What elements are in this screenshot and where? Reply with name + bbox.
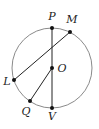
label-m: M (65, 13, 78, 26)
label-o: O (57, 62, 66, 75)
point-m (68, 30, 72, 34)
point-p (50, 26, 54, 30)
point-o (50, 66, 54, 70)
point-l (12, 78, 16, 82)
label-q: Q (21, 105, 30, 118)
label-v: V (48, 110, 57, 123)
circle-diagram: P M L O Q V (0, 0, 99, 129)
label-l: L (2, 75, 10, 88)
radius-oq (30, 68, 52, 101)
label-p: P (47, 10, 56, 23)
point-q (28, 99, 32, 103)
